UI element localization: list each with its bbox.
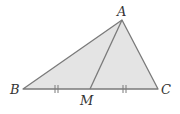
triangle-diagram: A B C M xyxy=(0,0,180,114)
label-a: A xyxy=(116,4,126,19)
label-m: M xyxy=(79,93,94,108)
triangle-abc-fill xyxy=(23,20,158,89)
label-c: C xyxy=(161,82,171,97)
label-b: B xyxy=(9,82,20,97)
